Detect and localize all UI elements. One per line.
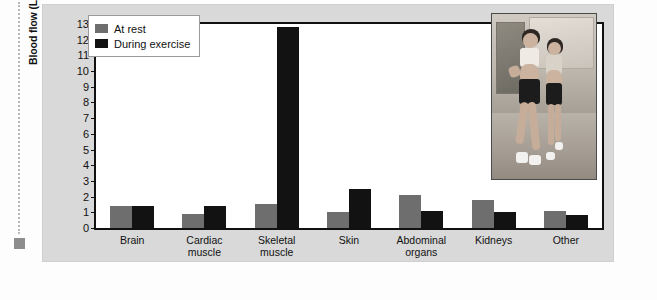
legend-swatch-at-rest — [95, 24, 108, 33]
bar-group — [255, 24, 299, 228]
y-axis-tick-label: 2 — [43, 191, 89, 203]
page-margin-dotted-rule — [18, 2, 22, 234]
chart-legend: At restDuring exercise — [88, 15, 200, 57]
bar-at-rest — [327, 212, 349, 228]
bar-during-exercise — [421, 211, 443, 228]
bar-during-exercise — [566, 215, 588, 228]
y-axis-tick-label: 10 — [43, 65, 89, 77]
y-axis-tick-label: 7 — [43, 112, 89, 124]
page-canvas: Blood flow (L/min) 012345678910111213 Br… — [0, 0, 657, 300]
legend-entry: During exercise — [95, 36, 190, 51]
y-axis-tick-label: 13 — [43, 18, 89, 30]
bar-during-exercise — [132, 206, 154, 228]
photo-person-front — [509, 31, 553, 163]
x-axis-label: Other — [523, 234, 609, 246]
y-axis-tick-label: 1 — [43, 206, 89, 218]
legend-label: At rest — [114, 23, 146, 35]
bar-at-rest — [472, 200, 494, 228]
bar-at-rest — [255, 204, 277, 228]
step-aerobics-photo — [491, 13, 597, 180]
y-axis-title: Blood flow (L/min) — [27, 0, 39, 65]
legend-entry: At rest — [95, 21, 190, 36]
bar-at-rest — [110, 206, 132, 228]
bar-during-exercise — [494, 212, 516, 228]
y-axis-tick-label: 9 — [43, 81, 89, 93]
bar-at-rest — [182, 214, 204, 228]
legend-label: During exercise — [114, 38, 190, 50]
y-axis-tick-label: 8 — [43, 96, 89, 108]
page-margin-square-marker — [14, 238, 25, 249]
bar-at-rest — [544, 211, 566, 228]
bar-during-exercise — [277, 27, 299, 228]
y-axis-tick-label: 6 — [43, 128, 89, 140]
bar-during-exercise — [349, 189, 371, 228]
bar-group — [327, 24, 371, 228]
legend-swatch-during-exercise — [95, 39, 108, 48]
y-axis-tick-label: 4 — [43, 159, 89, 171]
y-axis-tick-label: 12 — [43, 34, 89, 46]
y-axis-tick-label: 11 — [43, 49, 89, 61]
figure-panel: Blood flow (L/min) 012345678910111213 Br… — [42, 4, 614, 262]
bar-at-rest — [399, 195, 421, 228]
bar-during-exercise — [204, 206, 226, 228]
bar-group — [399, 24, 443, 228]
y-axis-tick-label: 0 — [43, 222, 89, 234]
y-axis-tick-label: 5 — [43, 144, 89, 156]
y-axis-tick-label: 3 — [43, 175, 89, 187]
